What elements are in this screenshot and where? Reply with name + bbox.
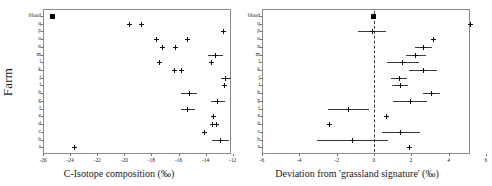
- x-tick-mark: [43, 154, 44, 156]
- x-tick-label: 4: [439, 158, 459, 163]
- y-tick-label-e: e: [15, 113, 41, 118]
- y-tick-label-q: q: [15, 21, 41, 26]
- y-tick-mark: [260, 93, 262, 94]
- x-tick-label: -4: [289, 158, 309, 163]
- data-point: [222, 83, 227, 88]
- y-tick-label-i: i: [234, 82, 260, 87]
- data-point: [50, 14, 55, 19]
- x-tick-mark: [262, 154, 263, 156]
- data-point: [421, 45, 426, 50]
- x-tick-mark: [337, 154, 338, 156]
- y-tick-mark: [260, 39, 262, 40]
- data-point: [398, 83, 403, 88]
- x-tick-mark: [486, 154, 487, 156]
- y-tick-mark: [260, 101, 262, 102]
- y-tick-mark: [41, 78, 43, 79]
- data-point: [160, 45, 165, 50]
- y-tick-mark: [41, 24, 43, 25]
- x-tick-label: -14: [196, 158, 216, 163]
- x-tick-label: -18: [141, 158, 161, 163]
- y-tick-label-c: c: [234, 129, 260, 134]
- y-tick-mark: [260, 24, 262, 25]
- y-tick-mark: [41, 47, 43, 48]
- x-tick-mark: [411, 154, 412, 156]
- data-point: [215, 99, 220, 104]
- y-tick-mark: [260, 47, 262, 48]
- y-tick-label-j: j: [234, 75, 260, 80]
- data-point: [468, 22, 473, 27]
- x-tick-mark: [206, 154, 207, 156]
- data-point: [398, 130, 403, 135]
- y-tick-mark: [41, 101, 43, 102]
- y-tick-label-h: h: [15, 90, 41, 95]
- data-point: [421, 68, 426, 73]
- y-tick-label-n: n: [234, 44, 260, 49]
- data-point: [185, 107, 190, 112]
- data-point: [154, 37, 159, 42]
- x-tick-label: 2: [401, 158, 421, 163]
- y-tick-label-f: f: [15, 106, 41, 111]
- data-point: [413, 53, 418, 58]
- data-point: [157, 60, 162, 65]
- y-tick-label-b: b: [234, 137, 260, 142]
- y-tick-label-p: p: [15, 28, 41, 33]
- y-tick-label-a: a: [234, 144, 260, 149]
- data-point: [221, 29, 226, 34]
- x-tick-label: -22: [87, 158, 107, 163]
- data-point: [397, 76, 402, 81]
- data-point: [179, 68, 184, 73]
- data-point: [371, 14, 376, 19]
- y-tick-label-d: d: [234, 121, 260, 126]
- y-tick-mark: [260, 31, 262, 32]
- y-tick-mark: [260, 16, 262, 17]
- y-tick-mark: [41, 109, 43, 110]
- x-tick-label: 0: [364, 158, 384, 163]
- y-tick-label-j: j: [15, 75, 41, 80]
- y-tick-mark: [41, 132, 43, 133]
- data-point: [384, 114, 389, 119]
- y-tick-mark: [260, 70, 262, 71]
- y-tick-label-h: h: [234, 90, 260, 95]
- data-point: [187, 91, 192, 96]
- y-tick-mark: [260, 124, 262, 125]
- data-point: [370, 29, 375, 34]
- data-point: [350, 138, 355, 143]
- data-point: [214, 122, 219, 127]
- data-point: [72, 145, 77, 150]
- y-tick-mark: [260, 109, 262, 110]
- y-tick-mark: [260, 147, 262, 148]
- data-point: [327, 122, 332, 127]
- data-point: [202, 130, 207, 135]
- data-point: [127, 22, 132, 27]
- y-tick-label-o: o: [15, 36, 41, 41]
- y-tick-label-p: p: [234, 28, 260, 33]
- x-tick-mark: [97, 154, 98, 156]
- data-point: [346, 107, 351, 112]
- y-tick-label-g: g: [15, 98, 41, 103]
- y-tick-label-d: d: [15, 121, 41, 126]
- y-tick-mark: [260, 85, 262, 86]
- y-tick-label-m: m: [234, 52, 260, 57]
- x-tick-label: -26: [33, 158, 53, 163]
- y-tick-label-i: i: [15, 82, 41, 87]
- data-point: [218, 138, 223, 143]
- x-tick-mark: [233, 154, 234, 156]
- y-tick-label-l: l: [15, 59, 41, 64]
- x-axis-title-right: Deviation from 'grassland signature' (‰): [238, 168, 476, 179]
- y-tick-mark: [41, 31, 43, 32]
- y-tick-mark: [260, 116, 262, 117]
- y-tick-label-n: n: [15, 44, 41, 49]
- y-tick-mark: [41, 147, 43, 148]
- x-tick-mark: [179, 154, 180, 156]
- y-tick-label-g: g: [234, 98, 260, 103]
- y-tick-mark: [41, 93, 43, 94]
- y-tick-label-m: m: [15, 52, 41, 57]
- x-tick-label: -6: [252, 158, 272, 163]
- y-tick-label-blood: blood: [234, 13, 260, 18]
- y-tick-mark: [41, 55, 43, 56]
- y-tick-label-o: o: [234, 36, 260, 41]
- y-tick-label-k: k: [15, 67, 41, 72]
- y-tick-label-a: a: [15, 144, 41, 149]
- y-tick-label-q: q: [234, 21, 260, 26]
- y-tick-label-l: l: [234, 59, 260, 64]
